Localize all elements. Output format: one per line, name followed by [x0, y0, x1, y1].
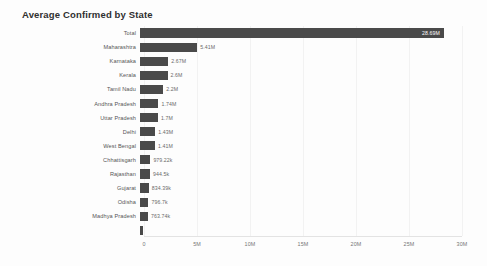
x-axis-tick-label: 30M [457, 241, 468, 247]
bar-row[interactable]: Karnataka2.67M [0, 54, 487, 68]
bar[interactable] [140, 28, 444, 37]
x-axis-tick-label: 15M [298, 241, 309, 247]
bar[interactable] [140, 99, 158, 108]
bar-rows: Total28.69MMaharashtra5.41MKarnataka2.67… [0, 26, 487, 236]
bar-category-label: Gujarat [0, 185, 140, 191]
bar[interactable] [140, 85, 163, 94]
bar-track: 796.7k [140, 195, 487, 209]
bar[interactable] [140, 183, 149, 192]
bar-track: 2.6M [140, 68, 487, 82]
bar-track: 979.22k [140, 153, 487, 167]
bar-category-label: West Bengal [0, 143, 140, 149]
bar[interactable] [140, 212, 148, 221]
bar-track: 763.74k [140, 209, 487, 223]
bar-value-label: 763.74k [151, 213, 170, 219]
bar-row[interactable]: Chhattisgarh979.22k [0, 153, 487, 167]
bar[interactable] [140, 169, 150, 178]
bar-track: 5.41M [140, 40, 487, 54]
x-axis-tick-label: 5M [193, 241, 201, 247]
bar[interactable] [140, 43, 197, 52]
bar-row[interactable]: Kerala2.6M [0, 68, 487, 82]
bar-row[interactable]: Gujarat834.39k [0, 181, 487, 195]
bar-category-label: Chhattisgarh [0, 157, 140, 163]
chart-card: Average Confirmed by State Total28.69MMa… [0, 0, 487, 266]
axis-line [144, 236, 462, 237]
bar-row[interactable]: Madhya Pradesh763.74k [0, 209, 487, 223]
bar-row[interactable]: Odisha796.7k [0, 195, 487, 209]
bar-category-label: Tamil Nadu [0, 86, 140, 92]
bar-row[interactable]: Tamil Nadu2.2M [0, 82, 487, 96]
x-axis-tick-label: 25M [404, 241, 415, 247]
bar[interactable] [140, 141, 155, 150]
bar[interactable] [140, 71, 168, 80]
bar-value-label: 944.5k [153, 171, 169, 177]
bar-track: 944.5k [140, 167, 487, 181]
bar-category-label: Total [0, 30, 140, 36]
bar-track: 834.39k [140, 181, 487, 195]
chart-title: Average Confirmed by State [22, 9, 153, 20]
bar-value-label: 1.74M [161, 101, 176, 107]
bar[interactable] [140, 113, 158, 122]
bar-track: 1.74M [140, 96, 487, 110]
bar-row[interactable]: Maharashtra5.41M [0, 40, 487, 54]
bar-category-label: Andhra Pradesh [0, 101, 140, 107]
bar-row[interactable]: West Bengal1.41M [0, 139, 487, 153]
bar-category-label: Maharashtra [0, 44, 140, 50]
bar[interactable] [140, 226, 143, 235]
bar-track: 1.7M [140, 111, 487, 125]
bar-value-label: 796.7k [151, 199, 167, 205]
bar-track: 1.43M [140, 125, 487, 139]
bar-value-label: 28.69M [422, 30, 440, 36]
bar-category-label: Uttar Pradesh [0, 115, 140, 121]
x-axis: 05M10M15M20M25M30M [0, 236, 487, 266]
x-axis-tick-label: 10M [245, 241, 256, 247]
bar-value-label: 1.41M [158, 143, 173, 149]
bar-track: 28.69M [140, 26, 487, 40]
bar[interactable] [140, 198, 148, 207]
x-axis-tick-label: 0 [142, 241, 145, 247]
bar[interactable] [140, 155, 150, 164]
bar[interactable] [140, 57, 168, 66]
bar-value-label: 2.6M [171, 72, 183, 78]
bar-track: 1.41M [140, 139, 487, 153]
bar-category-label: Odisha [0, 199, 140, 205]
bar-category-label: Rajasthan [0, 171, 140, 177]
bar-row[interactable]: Andhra Pradesh1.74M [0, 96, 487, 110]
bar[interactable] [140, 127, 155, 136]
bar-value-label: 2.2M [166, 86, 178, 92]
bar-row[interactable]: Total28.69M [0, 26, 487, 40]
bar-value-label: 5.41M [200, 44, 215, 50]
bar-category-label: Karnataka [0, 58, 140, 64]
x-axis-tick-label: 20M [351, 241, 362, 247]
bar-row[interactable]: Uttar Pradesh1.7M [0, 111, 487, 125]
bar-value-label: 1.43M [158, 129, 173, 135]
bar-category-label: Kerala [0, 72, 140, 78]
bar-row[interactable]: Delhi1.43M [0, 125, 487, 139]
bar-value-label: 834.39k [152, 185, 171, 191]
bar-track: 2.67M [140, 54, 487, 68]
bar-track: 2.2M [140, 82, 487, 96]
plot-area: Total28.69MMaharashtra5.41MKarnataka2.67… [0, 26, 487, 236]
bar-value-label: 2.67M [171, 58, 186, 64]
bar-category-label: Delhi [0, 129, 140, 135]
bar-row[interactable]: Rajasthan944.5k [0, 167, 487, 181]
bar-category-label: Madhya Pradesh [0, 213, 140, 219]
bar-value-label: 1.7M [161, 115, 173, 121]
bar-value-label: 979.22k [153, 157, 172, 163]
